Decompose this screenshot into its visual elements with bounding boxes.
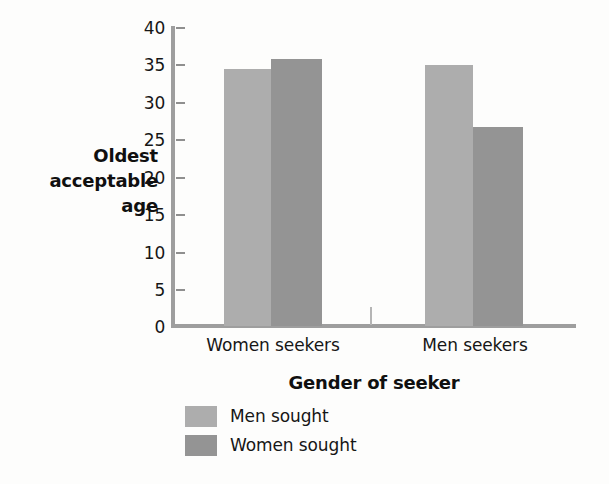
y-tick-label-30: 30 <box>105 95 165 112</box>
y-tick-25 <box>176 139 185 141</box>
legend-swatch-men-sought <box>185 406 217 427</box>
legend-item-men-sought: Men sought <box>185 402 356 431</box>
y-axis-title-line-1: Oldest <box>14 143 158 168</box>
bar-men-seekers-women-sought <box>473 127 523 326</box>
y-tick-40 <box>176 27 185 29</box>
y-tick-label-0: 0 <box>105 319 165 336</box>
x-category-label-women-seekers: Women seekers <box>193 336 353 355</box>
y-tick-label-35: 35 <box>105 57 165 74</box>
y-tick-label-5: 5 <box>105 282 165 299</box>
y-tick-20 <box>176 177 185 179</box>
y-axis-line <box>171 26 175 328</box>
bar-women-seekers-men-sought <box>224 69 271 326</box>
x-axis-group-divider-tick <box>370 307 372 325</box>
y-tick-5 <box>176 289 185 291</box>
bar-men-seekers-men-sought <box>425 65 473 326</box>
y-axis-title-line-2: acceptable <box>14 168 158 193</box>
y-tick-10 <box>176 252 185 254</box>
legend-swatch-women-sought <box>185 435 217 456</box>
y-tick-35 <box>176 64 185 66</box>
y-axis-title: Oldest acceptable age <box>14 143 158 218</box>
y-axis-title-line-3: age <box>14 193 158 218</box>
y-tick-label-10: 10 <box>105 245 165 262</box>
x-category-label-men-seekers: Men seekers <box>405 336 545 355</box>
legend-item-women-sought: Women sought <box>185 431 356 460</box>
figure-canvas: 40 35 30 25 20 15 10 5 0 Women seekers M… <box>0 0 609 484</box>
legend-label-men-sought: Men sought <box>230 408 329 425</box>
legend-label-women-sought: Women sought <box>230 437 356 454</box>
y-tick-15 <box>176 214 185 216</box>
x-axis-title: Gender of seeker <box>172 372 576 393</box>
y-tick-label-40: 40 <box>105 20 165 37</box>
y-tick-30 <box>176 102 185 104</box>
bar-women-seekers-women-sought <box>271 59 322 326</box>
chart-legend: Men sought Women sought <box>185 402 356 460</box>
